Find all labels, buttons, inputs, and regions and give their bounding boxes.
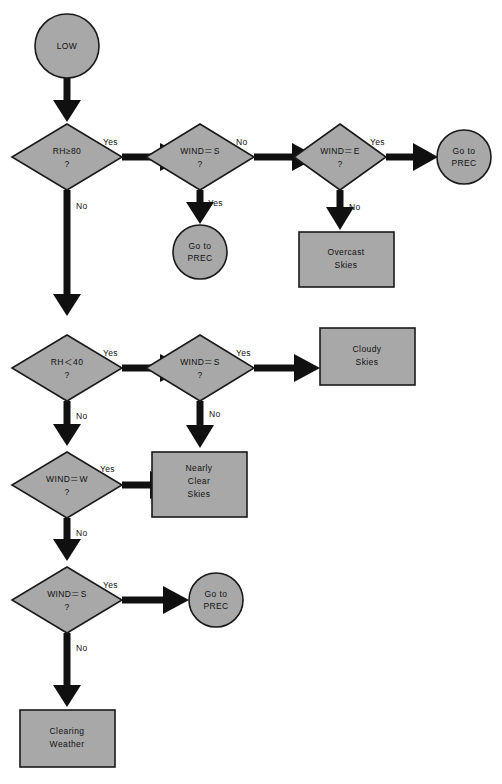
node-overcast-label-1: Overcast bbox=[327, 247, 364, 257]
node-wind-s-3-label-2: ? bbox=[64, 602, 69, 612]
edge-label-winds3-no: No bbox=[76, 643, 87, 653]
node-cloudy-label-1: Cloudy bbox=[353, 344, 382, 354]
edge-label-winds2-no: No bbox=[209, 409, 220, 419]
node-overcast-label-2: Skies bbox=[335, 260, 358, 270]
node-low-label: LOW bbox=[57, 41, 78, 51]
node-prec-2[interactable]: Go to PREC bbox=[437, 130, 491, 184]
node-rh80-label-1: RH≥80 bbox=[53, 146, 81, 156]
node-prec-2-label-1: Go to bbox=[453, 146, 476, 156]
node-wind-s-1-label-1: WIND＝S bbox=[180, 146, 220, 156]
node-nearly-clear-skies[interactable]: Nearly Clear Skies bbox=[152, 452, 247, 517]
node-nearly-label-2: Clear bbox=[188, 476, 210, 486]
edge-winds2-no: No bbox=[186, 401, 220, 448]
edge-rh40-no: No bbox=[53, 401, 87, 446]
edge-windw-no: No bbox=[53, 518, 87, 561]
node-wind-e-label-2: ? bbox=[337, 159, 342, 169]
edge-label-winds1-yes: Yes bbox=[208, 198, 223, 208]
node-clearing-label-1: Clearing bbox=[50, 726, 85, 736]
node-wind-w-label-2: ? bbox=[64, 487, 69, 497]
node-prec-1-label-2: PREC bbox=[187, 253, 212, 263]
edge-rh80-no: No bbox=[53, 190, 87, 316]
node-wind-e-label-1: WIND＝E bbox=[320, 146, 360, 156]
edge-label-winde-yes: Yes bbox=[370, 137, 385, 147]
node-prec-1-label-1: Go to bbox=[189, 241, 212, 251]
edge-label-windw-no: No bbox=[76, 528, 87, 538]
edge-low-to-rh80 bbox=[53, 78, 81, 122]
flowchart-canvas: WIND=S (1) --> Yes RH<40 --> No WIND=E -… bbox=[0, 0, 502, 784]
node-rh80-label-2: ? bbox=[64, 159, 69, 169]
node-prec-3[interactable]: Go to PREC bbox=[189, 573, 243, 627]
edge-winde-no: No bbox=[326, 190, 360, 230]
node-nearly-label-1: Nearly bbox=[186, 463, 213, 473]
node-rh80[interactable]: RH≥80 ? bbox=[12, 124, 122, 190]
node-prec-3-label-2: PREC bbox=[203, 601, 228, 611]
node-rh40-label-1: RH＜40 bbox=[51, 357, 84, 367]
edge-label-winde-no: No bbox=[349, 202, 360, 212]
edge-label-winds2-yes: Yes bbox=[236, 348, 251, 358]
node-wind-s-3-label-1: WIND＝S bbox=[47, 589, 87, 599]
node-rh40[interactable]: RH＜40 ? bbox=[12, 335, 122, 401]
node-cloudy-skies[interactable]: Cloudy Skies bbox=[320, 328, 415, 385]
node-wind-s-3[interactable]: WIND＝S ? bbox=[12, 567, 122, 633]
edge-winds1-yes: Yes bbox=[186, 190, 223, 224]
node-wind-s-2-label-1: WIND＝S bbox=[180, 357, 220, 367]
node-wind-e[interactable]: WIND＝E ? bbox=[294, 124, 386, 190]
node-prec-3-label-1: Go to bbox=[205, 589, 228, 599]
node-prec-2-label-2: PREC bbox=[451, 158, 476, 168]
node-wind-w-label-1: WIND＝W bbox=[46, 474, 88, 484]
node-low[interactable]: LOW bbox=[35, 14, 99, 78]
node-wind-s-1-label-2: ? bbox=[197, 159, 202, 169]
node-clearing-label-2: Weather bbox=[50, 739, 85, 749]
edge-label-rh80-no: No bbox=[76, 201, 87, 211]
edge-label-winds1-no: No bbox=[236, 137, 247, 147]
node-cloudy-label-2: Skies bbox=[356, 357, 379, 367]
node-prec-1[interactable]: Go to PREC bbox=[173, 225, 227, 279]
edge-label-rh80-yes: Yes bbox=[103, 137, 118, 147]
flowchart-svg: WIND=S (1) --> Yes RH<40 --> No WIND=E -… bbox=[0, 0, 502, 784]
edge-label-rh40-no: No bbox=[76, 411, 87, 421]
node-wind-w[interactable]: WIND＝W ? bbox=[12, 452, 122, 518]
node-overcast-skies[interactable]: Overcast Skies bbox=[299, 232, 394, 287]
node-wind-s-2-label-2: ? bbox=[197, 370, 202, 380]
node-clearing-weather[interactable]: Clearing Weather bbox=[20, 710, 115, 767]
edge-label-rh40-yes: Yes bbox=[103, 348, 118, 358]
node-wind-s-1[interactable]: WIND＝S ? bbox=[146, 124, 254, 190]
node-rh40-label-2: ? bbox=[64, 370, 69, 380]
edge-label-winds3-yes: Yes bbox=[103, 580, 118, 590]
node-wind-s-2[interactable]: WIND＝S ? bbox=[146, 335, 254, 401]
node-nearly-label-3: Skies bbox=[188, 489, 211, 499]
edge-winds3-no: No bbox=[53, 633, 87, 707]
